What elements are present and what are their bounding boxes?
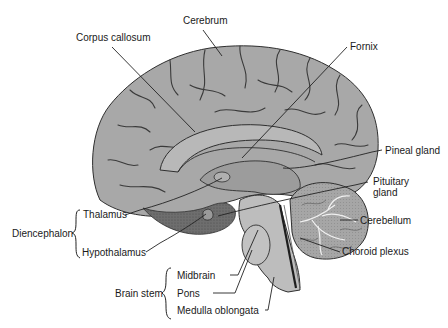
label-midbrain: Midbrain [177,270,215,281]
label-pituitary-gland-line2: gland [373,187,397,198]
label-pineal-gland: Pineal gland [385,145,440,156]
label-cerebrum: Cerebrum [183,15,227,26]
brain-stem-brace [162,268,171,319]
label-hypothalamus: Hypothalamus [82,247,146,258]
label-choroid-plexus: Choroid plexus [342,246,409,257]
label-diencephalon: Diencephalon [12,228,73,239]
brain-illustration [0,0,448,328]
label-medulla-oblongata: Medulla oblongata [177,305,259,316]
braces [72,210,171,319]
label-thalamus: Thalamus [83,209,127,220]
label-pons: Pons [177,288,200,299]
label-cerebellum: Cerebellum [360,215,411,226]
pons-shape [242,225,270,265]
label-fornix: Fornix [350,41,378,52]
label-corpus-callosum: Corpus callosum [76,32,150,43]
label-brain-stem: Brain stem [115,288,163,299]
brain-diagram: Cerebrum Corpus callosum Fornix Pineal g… [0,0,448,328]
diencephalon-brace [72,210,80,258]
label-pituitary-gland-line1: Pituitary [373,176,409,187]
